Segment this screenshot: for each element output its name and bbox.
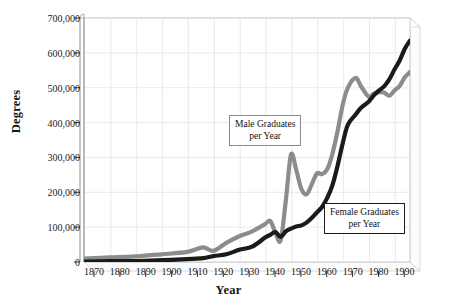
annotation-female-line2: per Year (330, 219, 399, 231)
x-tick-label: 1940 (265, 266, 285, 277)
x-tick-label: 1930 (239, 266, 259, 277)
plot-right-wall-3d (410, 18, 420, 271)
annotation-male-graduates: Male Graduates per Year (229, 115, 301, 146)
y-tick-label: 100,000 (22, 222, 80, 233)
y-axis-title: Degrees (9, 67, 24, 157)
x-tick-label: 1950 (291, 266, 311, 277)
degrees-by-year-line-chart: 0100,000200,000300,000400,000500,000600,… (0, 0, 457, 306)
x-tick-label: 1990 (394, 266, 414, 277)
y-axis-wall (80, 14, 84, 262)
y-tick-label: 700,000 (22, 13, 80, 24)
y-axis-tick-labels: 0100,000200,000300,000400,000500,000600,… (22, 0, 80, 306)
x-tick-label: 1910 (187, 266, 207, 277)
y-tick-label: 400,000 (22, 117, 80, 128)
y-tick-label: 500,000 (22, 82, 80, 93)
x-tick-label: 1870 (84, 266, 104, 277)
x-tick-label: 1970 (343, 266, 363, 277)
x-tick-label: 1880 (110, 266, 130, 277)
x-tick-label: 1980 (369, 266, 389, 277)
annotation-female-line1: Female Graduates (330, 207, 399, 217)
y-tick-label: 200,000 (22, 187, 80, 198)
x-tick-label: 1890 (136, 266, 156, 277)
annotation-female-graduates: Female Graduates per Year (324, 203, 405, 234)
annotation-male-line2: per Year (235, 131, 295, 143)
y-tick-label: 300,000 (22, 152, 80, 163)
x-tick-label: 1920 (213, 266, 233, 277)
x-axis-title: Year (0, 283, 457, 298)
y-tick-label: 600,000 (22, 47, 80, 58)
x-tick-label: 1900 (162, 266, 182, 277)
annotation-male-line1: Male Graduates (235, 119, 295, 129)
x-tick-label: 1960 (317, 266, 337, 277)
